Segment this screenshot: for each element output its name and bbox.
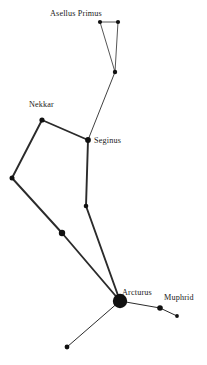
star-node-s12[interactable] bbox=[65, 345, 70, 350]
star-label-nekkar: Nekkar bbox=[29, 100, 54, 109]
star-label-asellus-primus: Asellus Primus bbox=[50, 9, 102, 18]
star-node-s6[interactable] bbox=[10, 176, 15, 181]
star-node-s8[interactable] bbox=[59, 230, 65, 236]
star-node-seginus[interactable] bbox=[85, 137, 91, 143]
star-node-s2[interactable] bbox=[116, 20, 120, 24]
constellation-chart: Asellus PrimusNekkarSeginusArcturusMuphr… bbox=[0, 0, 207, 365]
star-node-s11[interactable] bbox=[175, 314, 179, 318]
star-node-s3[interactable] bbox=[113, 70, 117, 74]
constellation-star-map: Asellus PrimusNekkarSeginusArcturusMuphr… bbox=[0, 0, 207, 365]
star-node-asellus-primus[interactable] bbox=[98, 20, 102, 24]
star-node-muphrid[interactable] bbox=[157, 305, 163, 311]
star-label-arcturus: Arcturus bbox=[122, 288, 152, 297]
star-node-nekkar[interactable] bbox=[39, 117, 44, 122]
star-label-seginus: Seginus bbox=[94, 136, 121, 145]
chart-background bbox=[0, 0, 207, 365]
star-label-muphrid: Muphrid bbox=[164, 293, 194, 302]
star-node-s7[interactable] bbox=[84, 204, 89, 209]
